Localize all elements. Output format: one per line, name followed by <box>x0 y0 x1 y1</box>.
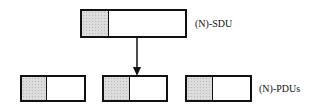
pdu-box-3 <box>185 75 252 102</box>
pdu-payload <box>47 77 84 100</box>
pdu-payload <box>130 77 166 100</box>
pdu-payload <box>213 77 250 100</box>
pdu-box-2 <box>102 75 168 102</box>
pdus-label: (N)-PDUs <box>259 84 300 94</box>
pdu-header-shaded <box>22 77 47 100</box>
pdu-header-shaded <box>187 77 213 100</box>
pdu-box-1 <box>20 75 86 102</box>
pdu-header-shaded <box>104 77 130 100</box>
